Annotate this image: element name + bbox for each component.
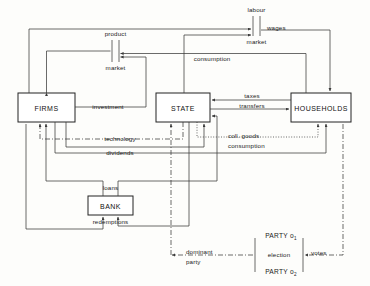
box-label-state: STATE xyxy=(171,104,195,111)
flow-label-transfers: transfers xyxy=(239,103,264,109)
diagram-canvas xyxy=(0,0,370,286)
product-market-bars xyxy=(112,40,119,62)
market-label-labour-market: market xyxy=(247,39,267,45)
flow-label-votes: votes xyxy=(311,250,327,256)
flow-label-dominant: dominant xyxy=(186,249,213,255)
flow-label-taxes: taxes xyxy=(244,93,260,99)
party-label-o2: PARTY o2 xyxy=(265,268,297,277)
party-o1-subscript: 1 xyxy=(294,236,297,241)
market-label-product: product xyxy=(105,31,127,37)
market-label-product-market: market xyxy=(106,65,126,71)
flow-loans-firms xyxy=(46,124,103,196)
market-label-labour: labour xyxy=(247,7,265,13)
flow-label-consumption: consumption xyxy=(194,56,231,62)
flow-wages xyxy=(261,30,330,91)
flow-firms-to-product-market xyxy=(47,51,111,93)
flow-label-coll-goods-consumption: consumption xyxy=(228,143,265,149)
box-label-firms: FIRMS xyxy=(34,104,58,111)
flow-dividends-households xyxy=(55,122,326,153)
flow-label-investment: investment xyxy=(92,104,123,110)
box-label-households: HOUSEHOLDS xyxy=(294,104,348,111)
flow-label-wages: wages xyxy=(267,25,286,31)
flow-state-to-labour-market xyxy=(184,35,251,93)
flow-label-election: election xyxy=(268,252,291,258)
flow-label-dominant-party: party xyxy=(186,259,201,265)
flow-votes xyxy=(305,124,343,255)
box-label-bank: BANK xyxy=(100,202,121,209)
party-o2-name: PARTY o xyxy=(265,268,294,275)
flow-label-technology: technology xyxy=(104,136,135,142)
party-o1-name: PARTY o xyxy=(265,232,294,239)
flow-label-dividends: dividends xyxy=(106,150,134,156)
party-label-o1: PARTY o1 xyxy=(265,232,297,241)
circular-flow-diagram: FIRMS STATE HOUSEHOLDS BANK product mark… xyxy=(0,0,370,286)
party-o2-subscript: 2 xyxy=(294,272,297,277)
flow-label-coll-goods: coll. goods xyxy=(228,133,259,139)
flow-label-redemptions: redemptions xyxy=(93,219,129,225)
flow-label-loans: loans xyxy=(103,185,119,191)
labour-market-bars xyxy=(253,16,260,36)
